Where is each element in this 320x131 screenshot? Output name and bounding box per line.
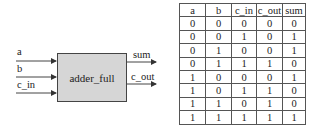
- table-row: 0 0 0 0 0: [180, 17, 306, 30]
- table-row: 0 0 1 0 1: [180, 30, 306, 43]
- adder-full-block: adder_full: [57, 53, 127, 102]
- header-c-in: c_in: [232, 4, 257, 17]
- cell: 1: [180, 84, 206, 97]
- cell: 1: [283, 44, 306, 57]
- cell: 0: [283, 97, 306, 110]
- cell: 1: [283, 70, 306, 83]
- header-c-out: c_out: [257, 4, 283, 17]
- cell: 0: [232, 70, 257, 83]
- table-row: 1 0 1 1 0: [180, 84, 306, 97]
- cell: 0: [232, 97, 257, 110]
- cell: 0: [206, 70, 232, 83]
- header-a: a: [180, 4, 206, 17]
- cell: 1: [232, 30, 257, 43]
- cell: 1: [180, 70, 206, 83]
- cell: 1: [206, 97, 232, 110]
- cell: 0: [257, 17, 283, 30]
- cell: 0: [180, 17, 206, 30]
- cell: 0: [257, 70, 283, 83]
- cell: 0: [180, 44, 206, 57]
- cell: 0: [283, 57, 306, 70]
- cell: 0: [206, 84, 232, 97]
- cell: 1: [232, 111, 257, 124]
- cell: 1: [232, 57, 257, 70]
- full-adder-block-diagram: a b c_in adder_full sum c_out: [0, 0, 170, 131]
- cell: 1: [206, 57, 232, 70]
- cell: 1: [180, 111, 206, 124]
- header-b: b: [206, 4, 232, 17]
- cell: 1: [257, 57, 283, 70]
- input-label-a: a: [17, 46, 22, 57]
- cell: 1: [206, 44, 232, 57]
- header-sum: sum: [283, 4, 306, 17]
- output-label-c-out: c_out: [131, 71, 154, 82]
- table-row: 1 1 1 1 1: [180, 111, 306, 124]
- table-row: 1 0 0 0 1: [180, 70, 306, 83]
- table-row: 1 1 0 1 0: [180, 97, 306, 110]
- cell: 0: [180, 30, 206, 43]
- cell: 0: [206, 17, 232, 30]
- cell: 1: [283, 30, 306, 43]
- block-name: adder_full: [69, 72, 114, 84]
- cell: 1: [206, 111, 232, 124]
- cell: 1: [283, 111, 306, 124]
- cell: 0: [257, 30, 283, 43]
- table-row: 0 1 1 1 0: [180, 57, 306, 70]
- cell: 1: [180, 97, 206, 110]
- cell: 0: [257, 44, 283, 57]
- cell: 1: [232, 84, 257, 97]
- cell: 0: [283, 84, 306, 97]
- truth-table: a b c_in c_out sum 0 0 0 0 0 0 0 1 0 1 0…: [179, 3, 306, 125]
- output-label-sum: sum: [133, 49, 151, 60]
- table-row: 0 1 0 0 1: [180, 44, 306, 57]
- table-header-row: a b c_in c_out sum: [180, 4, 306, 17]
- cell: 0: [206, 30, 232, 43]
- input-label-c-in: c_in: [17, 79, 35, 90]
- input-label-b: b: [17, 63, 22, 74]
- cell: 1: [257, 97, 283, 110]
- cell: 0: [283, 17, 306, 30]
- cell: 0: [180, 57, 206, 70]
- cell: 0: [232, 17, 257, 30]
- cell: 1: [257, 84, 283, 97]
- cell: 0: [232, 44, 257, 57]
- cell: 1: [257, 111, 283, 124]
